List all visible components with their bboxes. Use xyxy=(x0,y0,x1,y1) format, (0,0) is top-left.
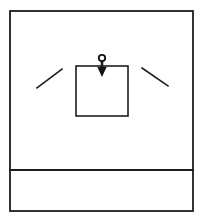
arrow-ring-icon xyxy=(99,55,105,61)
diagram-background xyxy=(0,0,203,221)
diagram-svg xyxy=(0,0,203,221)
diagram-canvas xyxy=(0,0,203,221)
